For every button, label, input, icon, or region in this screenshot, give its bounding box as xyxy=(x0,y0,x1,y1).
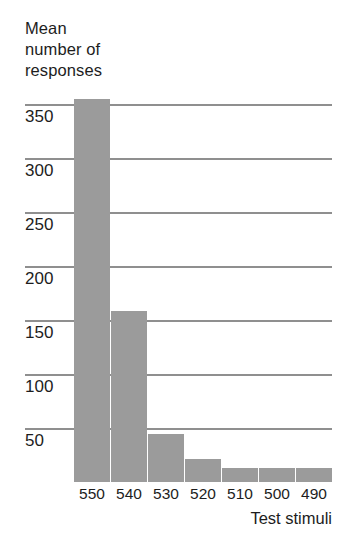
generalization-gradient-bar-chart: Mean number of responses 350300250200150… xyxy=(0,0,350,559)
y-axis-tick-label-350: 350 xyxy=(25,107,53,127)
bar-series xyxy=(74,100,332,482)
y-axis-title-line-1: Mean xyxy=(25,18,102,39)
x-axis-tick-labels: 550540530520510500490 xyxy=(74,484,332,506)
y-axis-tick-label-300: 300 xyxy=(25,161,53,181)
y-axis-title-line-2: number of xyxy=(25,39,102,60)
x-axis-tick-label-520: 520 xyxy=(185,484,222,504)
x-axis-tick-label-510: 510 xyxy=(222,484,259,504)
x-axis-tick-label-500: 500 xyxy=(259,484,296,504)
bar-530 xyxy=(148,434,184,482)
y-axis-tick-label-100: 100 xyxy=(25,377,53,397)
y-axis-title-line-3: responses xyxy=(25,60,102,81)
y-axis-tick-label-200: 200 xyxy=(25,269,53,289)
x-axis-tick-label-530: 530 xyxy=(148,484,185,504)
x-axis-tick-label-540: 540 xyxy=(111,484,148,504)
y-axis-title: Mean number of responses xyxy=(25,18,102,81)
bar-500 xyxy=(259,468,295,482)
x-axis-tick-label-490: 490 xyxy=(296,484,333,504)
bar-490 xyxy=(296,468,332,482)
y-axis-tick-label-50: 50 xyxy=(25,431,44,451)
bar-550 xyxy=(74,99,110,482)
bar-520 xyxy=(185,459,221,482)
y-axis-tick-label-250: 250 xyxy=(25,215,53,235)
x-axis-title: Test stimuli xyxy=(0,508,332,529)
y-axis-tick-label-150: 150 xyxy=(25,323,53,343)
x-axis-tick-label-550: 550 xyxy=(74,484,111,504)
bar-510 xyxy=(222,468,258,482)
bar-540 xyxy=(111,311,147,482)
